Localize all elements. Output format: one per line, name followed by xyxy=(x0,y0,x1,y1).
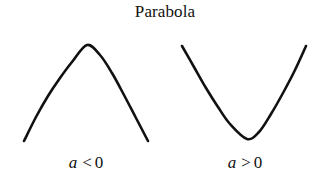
parabola-curve-concave-up xyxy=(182,46,306,139)
caption-right-value: 0 xyxy=(254,153,263,172)
caption-right-variable: a xyxy=(228,153,239,172)
parabola-curve-concave-down xyxy=(24,45,148,141)
caption-left-variable: a xyxy=(69,153,80,172)
caption-a-less-than-zero: a<0 xyxy=(22,152,150,174)
caption-left-value: 0 xyxy=(95,153,104,172)
caption-a-greater-than-zero: a>0 xyxy=(182,152,308,174)
caption-right-relation: > xyxy=(238,153,254,172)
parabola-figure: Parabola a<0 a>0 xyxy=(0,0,330,189)
caption-left-relation: < xyxy=(79,153,95,172)
